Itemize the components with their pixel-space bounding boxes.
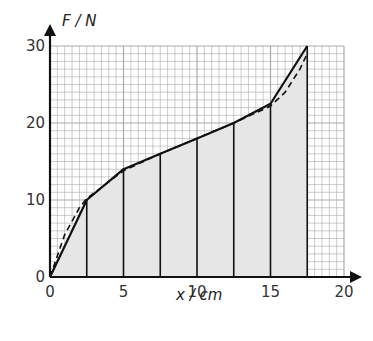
x-tick-label: 20 — [334, 283, 353, 301]
x-axis-arrow-icon — [350, 271, 362, 283]
y-tick-labels: 0102030 — [26, 37, 45, 286]
x-axis-label: x / cm — [175, 286, 222, 304]
y-tick-label: 0 — [35, 268, 45, 286]
y-axis-label: F / N — [62, 12, 96, 30]
y-tick-label: 20 — [26, 114, 45, 132]
x-tick-label: 15 — [261, 283, 280, 301]
y-tick-label: 30 — [26, 37, 45, 55]
y-tick-label: 10 — [26, 191, 45, 209]
force-extension-chart: 0102030 05101520 F / N x / cm — [0, 0, 373, 341]
y-axis-arrow-icon — [44, 24, 56, 36]
x-tick-label: 5 — [119, 283, 129, 301]
x-tick-label: 0 — [45, 283, 55, 301]
